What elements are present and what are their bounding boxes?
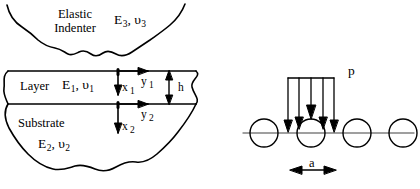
pressure-arrow-head <box>330 120 338 132</box>
thickness-arrow-down <box>166 95 173 105</box>
contact-width-arrow-right <box>324 166 336 174</box>
layer-left-edge <box>4 71 8 104</box>
substrate-separator: , <box>51 136 54 151</box>
axis-x2-arrowhead <box>114 123 121 133</box>
indenter-separator: , <box>127 12 130 27</box>
substrate-properties: E2, υ2 <box>38 137 70 153</box>
layer-poisson-subscript: 1 <box>89 84 94 94</box>
axis-label-x2: x2 <box>122 120 135 135</box>
axis-label-y1-subscript: 1 <box>147 80 154 90</box>
thickness-arrow-up <box>166 71 173 81</box>
indenter-poisson-subscript: 3 <box>141 19 146 29</box>
axis-label-x2-subscript: 2 <box>128 125 135 135</box>
axis-label-y2: y2 <box>141 108 154 123</box>
axis-x1-arrowhead <box>114 85 121 95</box>
substrate-outline <box>5 104 196 171</box>
layer-separator: , <box>75 77 78 92</box>
axis-label-y1: y1 <box>141 75 154 90</box>
layer-modulus-symbol: E <box>62 77 70 92</box>
substrate-label: Substrate <box>18 117 65 131</box>
layer-right-edge <box>192 71 198 104</box>
figure-canvas: Elastic Indenter E3, υ3 Layer E1, υ1 Sub… <box>0 0 420 189</box>
thickness-label: h <box>178 81 184 93</box>
axis-label-y2-subscript: 2 <box>147 113 154 123</box>
indenter-modulus-symbol: E <box>114 12 122 27</box>
axis-y1-arrowhead <box>138 67 148 74</box>
layer-poisson-symbol: υ <box>82 77 89 92</box>
indenter-label-line1: Elastic <box>42 8 108 22</box>
indenter-label-line2: Indenter <box>42 22 108 36</box>
pressure-arrow-head <box>284 120 292 132</box>
axis-label-y1-symbol: y <box>141 75 147 87</box>
layer-properties: E1, υ1 <box>62 78 94 94</box>
layer-label: Layer <box>20 80 49 94</box>
indenter-label: Elastic Indenter <box>42 8 108 35</box>
substrate-poisson-subscript: 2 <box>65 143 70 153</box>
contact-width-label: a <box>309 157 315 171</box>
contact-width-arrow-left <box>290 166 302 174</box>
indenter-poisson-symbol: υ <box>134 12 141 27</box>
axis-label-x1-subscript: 1 <box>128 86 135 96</box>
substrate-modulus-symbol: E <box>38 136 46 151</box>
indenter-properties: E3, υ3 <box>114 13 146 29</box>
pressure-arrow-head <box>307 105 316 119</box>
axis-label-x1: x1 <box>122 81 135 96</box>
pressure-label: p <box>348 64 355 79</box>
axis-label-x1-symbol: x <box>122 81 128 93</box>
axis-label-x2-symbol: x <box>122 120 128 132</box>
substrate-poisson-symbol: υ <box>58 136 65 151</box>
axis-y2-arrowhead <box>138 100 148 107</box>
axis-label-y2-symbol: y <box>141 108 147 120</box>
